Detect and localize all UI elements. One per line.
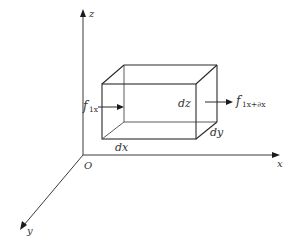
origin-label: O bbox=[84, 160, 92, 171]
force-right-arrow-icon bbox=[226, 99, 233, 105]
volume-element-box bbox=[102, 65, 217, 139]
force-left: f 1x bbox=[82, 99, 124, 114]
y-axis-label: y bbox=[26, 225, 33, 236]
force-right-subscript: 1x+∂x bbox=[242, 100, 266, 109]
force-right: f 1x+∂x bbox=[205, 94, 266, 109]
x-axis-label: x bbox=[277, 158, 283, 169]
y-axis: y bbox=[20, 155, 83, 236]
dy-label: dy bbox=[210, 126, 224, 139]
force-left-arrow-icon bbox=[117, 104, 124, 110]
force-left-subscript: 1x bbox=[89, 105, 99, 114]
dz-label: dz bbox=[178, 97, 191, 110]
z-axis-arrowhead-icon bbox=[80, 9, 86, 17]
z-axis-label: z bbox=[88, 8, 95, 19]
volume-element-diagram: z x y O bbox=[0, 0, 300, 246]
x-axis: x bbox=[83, 152, 283, 169]
dx-label: dx bbox=[115, 141, 129, 154]
z-axis: z bbox=[80, 8, 95, 155]
